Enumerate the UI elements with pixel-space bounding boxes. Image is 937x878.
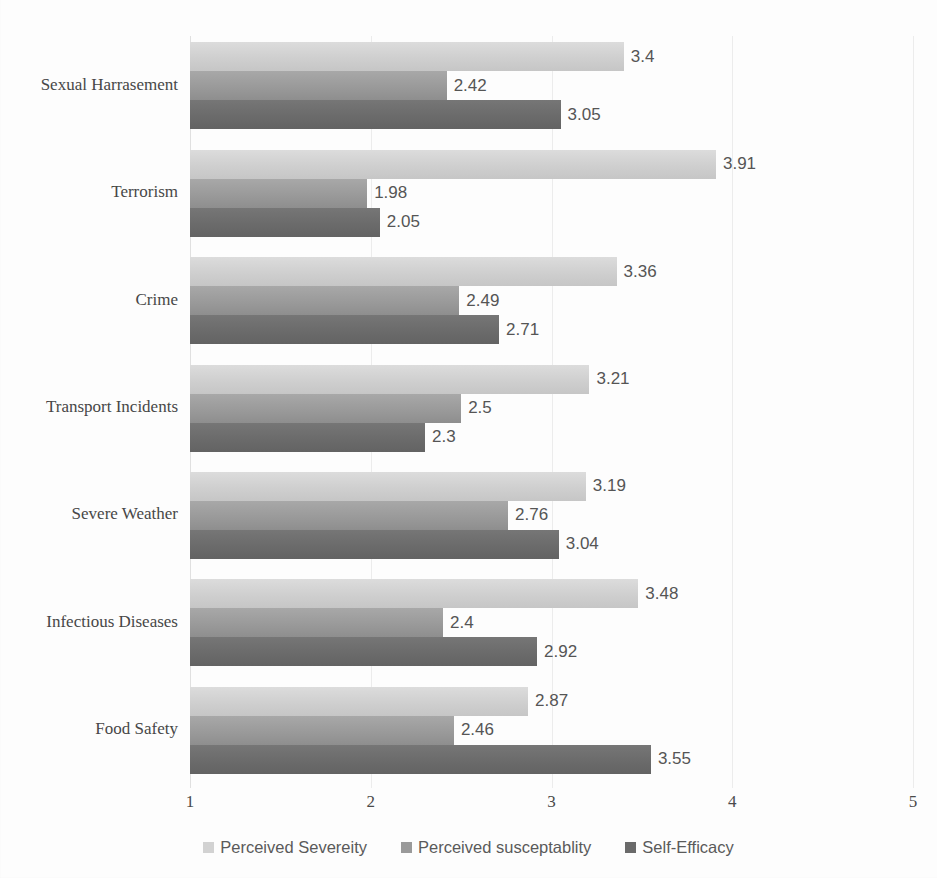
bar-value-label: 2.42: [447, 76, 487, 96]
bar-sus: [190, 716, 454, 745]
bar-row: 2.4: [190, 608, 913, 637]
bar-value-label: 2.46: [454, 720, 494, 740]
bar-sev: [190, 472, 586, 501]
bar-value-label: 2.92: [537, 642, 577, 662]
bar-row: 2.92: [190, 637, 913, 666]
bar-eff: [190, 423, 425, 452]
bar-value-label: 1.98: [367, 183, 407, 203]
bar-row: 3.36: [190, 257, 913, 286]
x-tick-4: 4: [728, 792, 737, 812]
category-label: Severe Weather: [3, 504, 178, 524]
bar-value-label: 2.87: [528, 691, 568, 711]
bar-row: 3.21: [190, 365, 913, 394]
bar-value-label: 2.05: [380, 212, 420, 232]
bar-group: 3.482.42.92: [190, 579, 913, 666]
bar-value-label: 2.71: [499, 320, 539, 340]
x-axis: 12345: [190, 792, 913, 820]
bar-row: 3.05: [190, 100, 913, 129]
bar-row: 2.05: [190, 208, 913, 237]
bar-sev: [190, 365, 589, 394]
bar-chart-figure: Sexual HarrasementTerrorismCrimeTranspor…: [0, 0, 937, 878]
bar-row: 2.76: [190, 501, 913, 530]
bar-value-label: 3.21: [589, 369, 629, 389]
x-tick-1: 1: [186, 792, 195, 812]
bar-eff: [190, 745, 651, 774]
bar-value-label: 3.05: [561, 105, 601, 125]
bar-row: 3.19: [190, 472, 913, 501]
legend-swatch-icon: [401, 842, 412, 853]
bar-sev: [190, 257, 617, 286]
bar-sev: [190, 42, 624, 71]
bar-group: 3.192.763.04: [190, 472, 913, 559]
bar-row: 2.5: [190, 394, 913, 423]
legend-swatch-icon: [625, 842, 636, 853]
legend-swatch-icon: [203, 842, 214, 853]
bar-value-label: 3.55: [651, 749, 691, 769]
bar-row: 2.87: [190, 687, 913, 716]
bar-group: 3.362.492.71: [190, 257, 913, 344]
bar-value-label: 3.19: [586, 476, 626, 496]
bar-row: 3.55: [190, 745, 913, 774]
bar-sev: [190, 687, 528, 716]
bar-value-label: 2.76: [508, 505, 548, 525]
bar-group: 3.212.52.3: [190, 365, 913, 452]
bar-row: 2.46: [190, 716, 913, 745]
bar-sus: [190, 394, 461, 423]
category-label: Food Safety: [3, 719, 178, 739]
x-tick-2: 2: [367, 792, 376, 812]
bar-row: 2.42: [190, 71, 913, 100]
bar-sev: [190, 579, 638, 608]
bar-group: 3.42.423.05: [190, 42, 913, 129]
bar-sus: [190, 286, 459, 315]
bar-eff: [190, 100, 561, 129]
bar-row: 3.04: [190, 530, 913, 559]
bar-sus: [190, 71, 447, 100]
legend-item[interactable]: Self-Efficacy: [625, 838, 733, 857]
bar-eff: [190, 208, 380, 237]
category-label: Crime: [3, 290, 178, 310]
bar-value-label: 2.49: [459, 291, 499, 311]
bar-sus: [190, 608, 443, 637]
legend-label: Perceived Severeity: [220, 838, 367, 857]
bar-value-label: 2.3: [425, 427, 456, 447]
bar-row: 2.49: [190, 286, 913, 315]
chart-legend: Perceived SevereityPerceived susceptabli…: [0, 838, 937, 857]
bar-eff: [190, 637, 537, 666]
category-label: Terrorism: [3, 182, 178, 202]
legend-item[interactable]: Perceived Severeity: [203, 838, 367, 857]
legend-label: Self-Efficacy: [642, 838, 733, 857]
bar-value-label: 3.48: [638, 584, 678, 604]
bar-group: 3.911.982.05: [190, 150, 913, 237]
plot-area: 3.42.423.053.911.982.053.362.492.713.212…: [190, 36, 913, 788]
bar-eff: [190, 315, 499, 344]
bar-row: 3.48: [190, 579, 913, 608]
bar-row: 3.4: [190, 42, 913, 71]
category-label: Sexual Harrasement: [3, 75, 178, 95]
legend-item[interactable]: Perceived susceptablity: [401, 838, 591, 857]
gridline-5: [913, 36, 914, 788]
bar-value-label: 2.4: [443, 613, 474, 633]
bar-row: 1.98: [190, 179, 913, 208]
bar-value-label: 3.91: [716, 154, 756, 174]
x-tick-5: 5: [909, 792, 918, 812]
bar-sus: [190, 179, 367, 208]
bar-value-label: 3.4: [624, 47, 655, 67]
bar-sev: [190, 150, 716, 179]
legend-label: Perceived susceptablity: [418, 838, 591, 857]
category-label: Infectious Diseases: [3, 612, 178, 632]
bar-row: 3.91: [190, 150, 913, 179]
x-tick-3: 3: [547, 792, 556, 812]
category-axis-labels: Sexual HarrasementTerrorismCrimeTranspor…: [0, 36, 178, 788]
bar-value-label: 2.5: [461, 398, 492, 418]
bar-sus: [190, 501, 508, 530]
bar-eff: [190, 530, 559, 559]
category-label: Transport Incidents: [3, 397, 178, 417]
bar-value-label: 3.04: [559, 534, 599, 554]
bar-row: 2.3: [190, 423, 913, 452]
bar-group: 2.872.463.55: [190, 687, 913, 774]
bar-row: 2.71: [190, 315, 913, 344]
bar-value-label: 3.36: [617, 262, 657, 282]
